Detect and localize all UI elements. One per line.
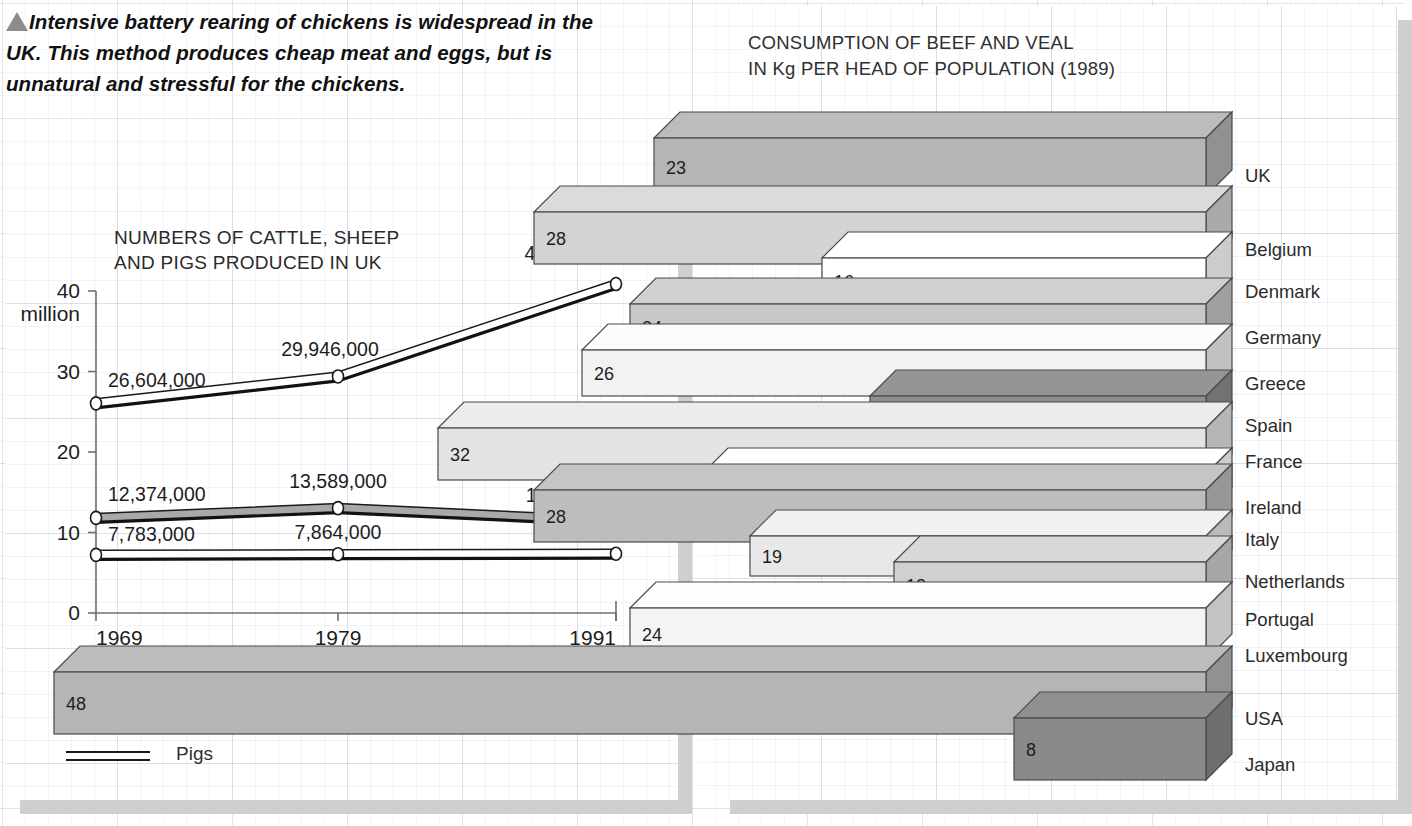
bar-category-label: Denmark — [1245, 281, 1320, 303]
right-panel-shadow-right — [1398, 20, 1412, 800]
bar-value-label: 26 — [594, 364, 614, 384]
bar-category-label: Japan — [1245, 754, 1295, 776]
bar-chart-svg: 232816242614322128191324488 — [0, 0, 684, 826]
bar-category-label: Ireland — [1245, 497, 1302, 519]
bar-value-label: 8 — [1026, 740, 1036, 760]
right-panel-shadow-bottom — [730, 800, 1412, 814]
bar-category-label: USA — [1245, 708, 1283, 730]
bar-category-label: Netherlands — [1245, 571, 1345, 593]
bar-value-label: 23 — [666, 158, 686, 178]
bar-category-label: Italy — [1245, 529, 1279, 551]
bar-category-label: Greece — [1245, 373, 1306, 395]
bar-chart-title: CONSUMPTION OF BEEF AND VEAL IN Kg PER H… — [748, 30, 1115, 82]
bar-category-label: Belgium — [1245, 239, 1312, 261]
bar-category-label: Spain — [1245, 415, 1292, 437]
bar-category-label: UK — [1245, 165, 1271, 187]
bar-value-label: 32 — [450, 445, 470, 465]
bar-value-label: 28 — [546, 507, 566, 527]
bar-value-label: 28 — [546, 229, 566, 249]
bar-value-label: 19 — [762, 547, 782, 567]
bar-value-label: 48 — [66, 694, 86, 714]
bar-category-label: Luxembourg — [1245, 645, 1348, 667]
bar-category-label: Germany — [1245, 327, 1321, 349]
bar-chart-title-line1: CONSUMPTION OF BEEF AND VEAL — [748, 30, 1115, 56]
bar-chart-title-line2: IN Kg PER HEAD OF POPULATION (1989) — [748, 56, 1115, 82]
bar-value-label: 24 — [642, 625, 662, 645]
bar-category-label: France — [1245, 451, 1303, 473]
bar-category-label: Portugal — [1245, 609, 1314, 631]
